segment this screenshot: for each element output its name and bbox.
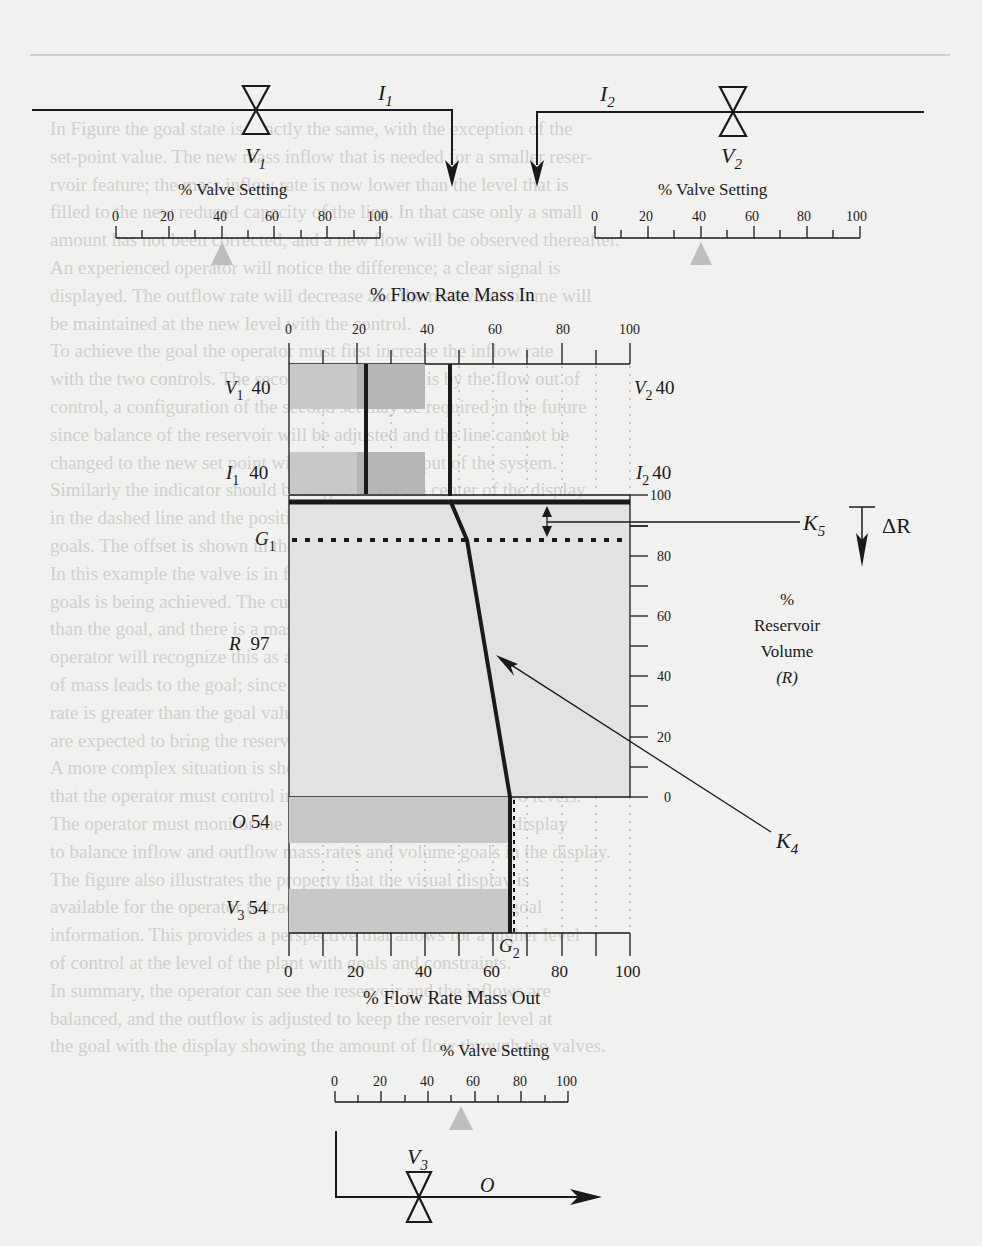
- row-label-v2: V240: [634, 377, 675, 403]
- row-label-o: O54: [232, 811, 270, 832]
- svg-text:0: 0: [331, 1074, 338, 1089]
- svg-text:60: 60: [488, 322, 502, 337]
- valve-v2-pointer-icon: [690, 242, 712, 265]
- svg-text:40: 40: [420, 322, 434, 337]
- row-label-v1: V140: [225, 377, 271, 403]
- row-label-r: R97: [228, 633, 270, 654]
- mass-balance-diagram: I1 V1 % Valve Setting 0 20 40 60 80 100 …: [0, 0, 982, 1246]
- svg-text:40: 40: [420, 1074, 434, 1089]
- svg-text:100: 100: [556, 1074, 577, 1089]
- valve-v1-label: V1: [245, 143, 266, 172]
- bar-v1: [289, 364, 357, 409]
- delta-r-arrow-icon: [849, 507, 875, 567]
- svg-text:Reservoir: Reservoir: [754, 616, 820, 635]
- bar-v3: [289, 889, 508, 933]
- svg-text:100: 100: [846, 209, 867, 224]
- svg-text:80: 80: [797, 209, 811, 224]
- outlet-pipe: [336, 1131, 602, 1205]
- row-label-i1: I140: [225, 462, 268, 488]
- outlet-label: O: [480, 1174, 494, 1196]
- valve-v2-scale[interactable]: 0 20 40 60 80 100: [591, 209, 867, 265]
- delta-r-label: ΔR: [882, 513, 911, 538]
- svg-text:40: 40: [415, 962, 432, 981]
- valve-v3-label: V3: [407, 1144, 428, 1173]
- svg-text:60: 60: [265, 209, 279, 224]
- svg-text:60: 60: [745, 209, 759, 224]
- k5-label: K5: [802, 510, 826, 539]
- row-label-g2: G2: [499, 935, 520, 961]
- svg-text:20: 20: [347, 962, 364, 981]
- svg-text:80: 80: [657, 549, 671, 564]
- valve-v2-scale-title: % Valve Setting: [658, 180, 768, 199]
- svg-text:%: %: [780, 590, 794, 609]
- svg-text:20: 20: [352, 322, 366, 337]
- inlet-1-label: I1: [377, 80, 393, 109]
- reservoir-axis-title: % Reservoir Volume (R): [754, 590, 820, 687]
- outflow-bars: [289, 797, 514, 933]
- valve-v3-scale-title: % Valve Setting: [440, 1041, 550, 1060]
- svg-text:80: 80: [551, 962, 568, 981]
- valve-v3-scale[interactable]: 0 20 40 60 80 100: [331, 1074, 577, 1130]
- svg-text:Volume: Volume: [761, 642, 814, 661]
- reservoir-axis: 100 80 60 40 20 0: [630, 488, 671, 805]
- svg-text:100: 100: [367, 209, 388, 224]
- valve-v1-scale[interactable]: 0 20 40 60 80 100: [112, 209, 388, 265]
- svg-text:20: 20: [639, 209, 653, 224]
- valve-v3-pointer-icon: [449, 1106, 473, 1130]
- inflow-bars: [289, 364, 450, 496]
- svg-text:20: 20: [657, 730, 671, 745]
- mass-in-axis: 0 20 40 60 80 100: [285, 322, 640, 364]
- k4-label: K4: [775, 828, 799, 857]
- svg-text:100: 100: [619, 322, 640, 337]
- mass-in-axis-title: % Flow Rate Mass In: [370, 284, 535, 305]
- row-label-g1: G1: [255, 528, 276, 554]
- svg-text:(R): (R): [776, 668, 798, 687]
- svg-text:60: 60: [483, 962, 500, 981]
- svg-text:100: 100: [615, 962, 641, 981]
- svg-text:40: 40: [657, 669, 671, 684]
- svg-text:20: 20: [160, 209, 174, 224]
- bar-i1: [289, 452, 357, 494]
- svg-text:20: 20: [373, 1074, 387, 1089]
- svg-text:60: 60: [466, 1074, 480, 1089]
- mass-out-axis: 0 20 40 60 80 100: [284, 933, 641, 981]
- svg-text:0: 0: [284, 962, 293, 981]
- svg-text:0: 0: [591, 209, 598, 224]
- valve-v2-label: V2: [721, 143, 742, 172]
- inlet-2-label: I2: [599, 81, 615, 110]
- svg-text:80: 80: [556, 322, 570, 337]
- svg-text:100: 100: [650, 488, 671, 503]
- svg-text:40: 40: [213, 209, 227, 224]
- svg-text:0: 0: [664, 790, 671, 805]
- svg-text:80: 80: [513, 1074, 527, 1089]
- row-label-v3: V354: [226, 897, 268, 923]
- reservoir-block: [289, 495, 630, 933]
- mass-out-axis-title: % Flow Rate Mass Out: [363, 987, 541, 1008]
- svg-text:80: 80: [318, 209, 332, 224]
- row-label-i2: I240: [635, 462, 671, 488]
- valve-v1-scale-title: % Valve Setting: [178, 180, 288, 199]
- svg-text:0: 0: [285, 322, 292, 337]
- valve-v1-pointer-icon: [211, 242, 233, 265]
- bar-o: [289, 797, 508, 843]
- svg-text:40: 40: [692, 209, 706, 224]
- svg-text:60: 60: [657, 609, 671, 624]
- svg-text:0: 0: [112, 209, 119, 224]
